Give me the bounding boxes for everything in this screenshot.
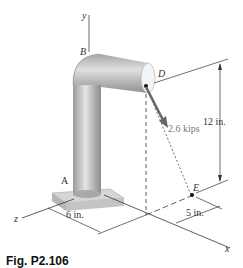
- y-axis-label: y: [82, 11, 86, 21]
- point-B-label: B: [80, 47, 86, 57]
- z-axis-label: z: [14, 214, 18, 224]
- force-label: 2.6 kips: [168, 124, 200, 134]
- force-arrow-shaft: [146, 87, 163, 120]
- point-E-label: E: [193, 183, 199, 193]
- dashed-ground: [146, 196, 191, 215]
- vertical-pipe: [73, 80, 101, 194]
- point-A-label: A: [61, 176, 68, 186]
- figure-caption: Fig. P2.106: [6, 255, 69, 267]
- dim-5in-label: 5 in.: [186, 208, 204, 218]
- dim-6in-label: 6 in.: [66, 210, 84, 220]
- force-arrow-head: [159, 116, 168, 128]
- point-E-dot: [190, 193, 194, 197]
- x-axis-line: [104, 195, 230, 248]
- x-axis-label: x: [225, 244, 229, 254]
- point-D-label: D: [158, 69, 165, 79]
- dim-12in-label: 12 in.: [203, 117, 226, 127]
